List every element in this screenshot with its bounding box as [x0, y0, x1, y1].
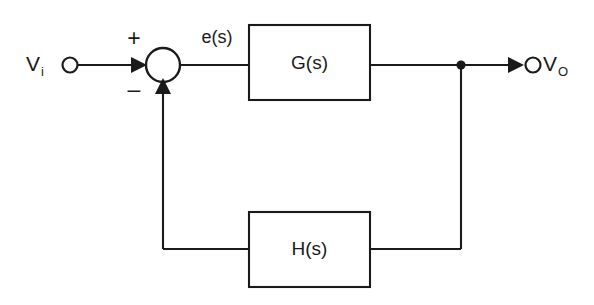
arrowhead-input-to-sum: [131, 57, 147, 73]
output-terminal-circle: [526, 58, 541, 73]
block-h-label: H(s): [249, 236, 370, 262]
output-label-main: V: [543, 53, 557, 74]
input-label-subscript: i: [41, 65, 44, 78]
input-terminal-label: V i: [26, 53, 66, 79]
error-signal-label: e(s): [189, 25, 245, 49]
summing-plus-sign: +: [124, 25, 144, 51]
input-label-main: V: [26, 53, 40, 74]
output-terminal-label: V O: [543, 53, 589, 79]
summing-junction-circle: [146, 48, 180, 82]
summing-minus-sign: –: [124, 76, 144, 102]
block-g-label: G(s): [249, 50, 370, 76]
output-label-subscript: O: [558, 65, 568, 78]
arrowhead-output: [508, 57, 524, 73]
block-diagram-canvas: V i + – e(s) G(s) H(s) V O: [0, 0, 594, 305]
